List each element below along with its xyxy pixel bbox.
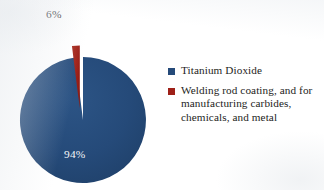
legend-swatch-titanium-dioxide — [168, 68, 175, 75]
legend-swatch-welding-rod-coating — [168, 88, 175, 95]
legend-item-titanium-dioxide[interactable]: Titanium Dioxide — [168, 64, 322, 77]
chart-legend: Titanium Dioxide Welding rod coating, an… — [168, 64, 322, 131]
pie-slice-label-large: 94% — [64, 148, 85, 160]
legend-label-titanium-dioxide: Titanium Dioxide — [181, 64, 262, 77]
pie-slice-titanium-dioxide — [20, 57, 146, 183]
pie-chart-figure: 6% 94% Titanium Dioxide Welding rod coat… — [0, 0, 324, 190]
legend-item-welding-rod-coating[interactable]: Welding rod coating, and for manufacturi… — [168, 84, 322, 124]
legend-label-welding-rod-coating: Welding rod coating, and for manufacturi… — [181, 84, 322, 124]
pie-slice-label-small: 6% — [46, 8, 62, 20]
